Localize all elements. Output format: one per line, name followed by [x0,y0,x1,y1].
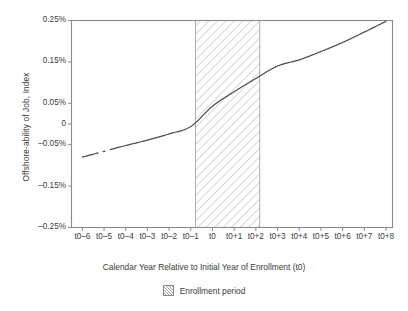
x-axis-tick-label: t0–4 [118,232,134,241]
offshore-ability-line-segment-a [82,153,98,157]
x-axis-tick-label: t0+4 [291,232,307,241]
y-axis-tick-label: –0.15% [38,181,66,190]
chart-legend: Enrollment period [0,285,408,296]
hatch-swatch-icon [163,285,174,296]
legend-item-label: Enrollment period [180,286,246,296]
x-axis-tick-label: t0+1 [226,232,242,241]
x-axis-title: Calendar Year Relative to Initial Year o… [0,262,408,272]
y-axis-tick-label: 0 [61,119,66,128]
y-axis-tick-label: 0.15% [43,56,66,65]
x-axis-tick-label: t0 [209,232,216,241]
x-axis-tick-label: t0–2 [161,232,177,241]
x-axis-tick-label: t0+3 [269,232,285,241]
y-axis-tick-label: –0.25% [38,222,66,231]
x-axis-tick-label: t0+7 [356,232,372,241]
y-axis-tick-label: 0.25% [43,15,66,24]
enrollment-period-band [196,21,260,228]
x-axis-tick-label: t0+2 [248,232,264,241]
y-axis-tick-label: 0.05% [43,98,66,107]
x-axis-tick-label: t0+5 [313,232,329,241]
x-axis-tick-label: t0–1 [183,232,199,241]
chart-figure: Offshore-ability of Job, Index 0.25%0.15… [0,0,408,311]
x-axis-tick-label: t0–6 [74,232,90,241]
x-axis-tick-label: t0+6 [335,232,351,241]
y-axis-tick-label: –0.05% [38,139,66,148]
x-axis-tick-label: t0+8 [378,232,394,241]
x-axis-tick-label: t0–5 [96,232,112,241]
x-axis-tick-label: t0–3 [139,232,155,241]
y-axis-title: Offshore-ability of Job, Index [22,12,36,242]
